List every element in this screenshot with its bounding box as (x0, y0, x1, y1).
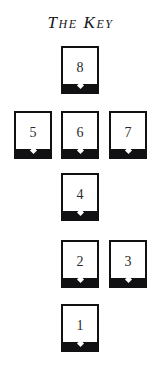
tarot-card-position-1[interactable]: 1 (61, 304, 99, 352)
diamond-icon (29, 147, 36, 154)
card-base-bar (63, 278, 97, 286)
diamond-icon (124, 147, 131, 154)
diamond-icon (76, 340, 83, 347)
card-base-bar (63, 342, 97, 350)
card-base-bar (63, 84, 97, 92)
tarot-card-position-8[interactable]: 8 (61, 46, 99, 94)
diamond-icon (76, 82, 83, 89)
tarot-card-position-5[interactable]: 5 (14, 111, 52, 159)
diamond-icon (76, 276, 83, 283)
card-base-bar (63, 211, 97, 219)
tarot-card-position-6[interactable]: 6 (61, 111, 99, 159)
diamond-icon (76, 209, 83, 216)
card-base-bar (111, 149, 145, 157)
diamond-icon (124, 276, 131, 283)
diamond-icon (76, 147, 83, 154)
card-base-bar (63, 149, 97, 157)
tarot-card-position-7[interactable]: 7 (109, 111, 147, 159)
card-base-bar (16, 149, 50, 157)
card-spread-layout: 8 5 6 7 4 2 3 (0, 0, 161, 370)
tarot-card-position-3[interactable]: 3 (109, 240, 147, 288)
card-base-bar (111, 278, 145, 286)
tarot-card-position-2[interactable]: 2 (61, 240, 99, 288)
tarot-card-position-4[interactable]: 4 (61, 173, 99, 221)
